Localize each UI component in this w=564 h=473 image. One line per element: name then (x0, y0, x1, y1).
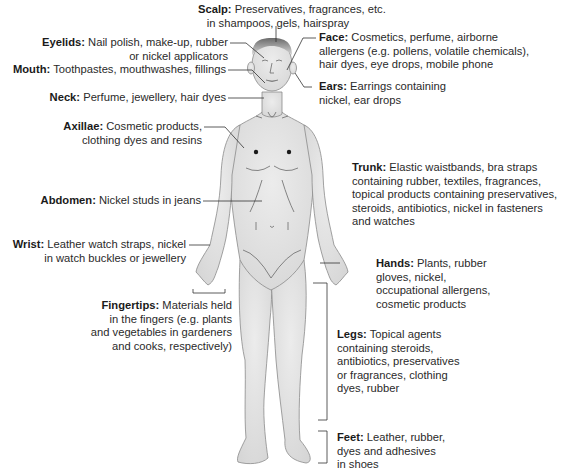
label-feet: Feet: Leather, rubber, dyes and adhesive… (337, 431, 445, 472)
label-legs: Legs: Topical agents containing steroids… (337, 328, 460, 396)
label-axillae: Axillae: Cosmetic products, clothing dye… (0, 120, 202, 147)
neck (262, 92, 282, 117)
label-face: Face: Cosmetics, perfume, airborne aller… (319, 31, 529, 72)
label-ears: Ears: Earrings containing nickel, ear dr… (319, 80, 446, 107)
label-abdomen: Abdomen: Nickel studs in jeans (0, 194, 201, 208)
left-ear (248, 62, 255, 74)
label-eyelids: Eyelids: Nail polish, make-up, rubber or… (0, 36, 228, 63)
label-trunk: Trunk: Elastic waistbands, bra straps co… (352, 161, 557, 229)
left-nipple (254, 150, 258, 154)
label-wrist: Wrist: Leather watch straps, nickel in w… (0, 238, 186, 265)
label-fingertips: Fingertips: Materials held in the finger… (0, 299, 232, 353)
label-neck: Neck: Perfume, jewellery, hair dyes (0, 91, 226, 105)
label-mouth: Mouth: Toothpastes, mouthwashes, filling… (0, 63, 226, 77)
right-leg (271, 260, 310, 463)
label-hands: Hands: Plants, rubber gloves, nickel, oc… (376, 257, 490, 311)
left-leg (237, 260, 271, 464)
right-ear (290, 62, 297, 74)
right-nipple (287, 150, 291, 154)
label-scalp: Scalp: Preservatives, fragrances, etc. i… (198, 3, 358, 30)
